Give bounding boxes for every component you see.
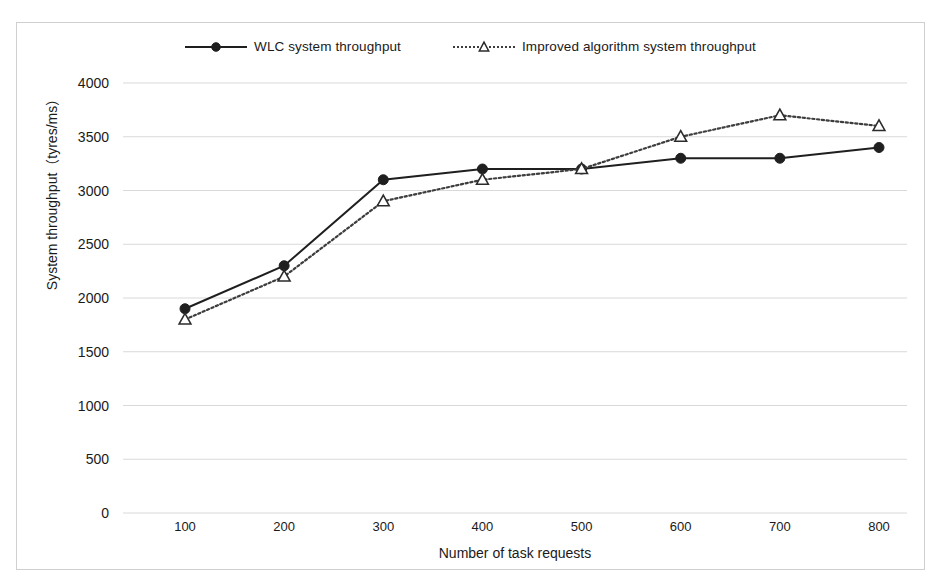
plot-area — [123, 83, 907, 513]
data-point-triangle — [774, 109, 786, 120]
legend-label-improved: Improved algorithm system throughput — [522, 39, 756, 54]
series-line — [185, 115, 879, 319]
y-tick-label: 2500 — [78, 236, 109, 252]
data-point-circle — [775, 153, 785, 163]
y-tick-label: 1500 — [78, 344, 109, 360]
y-tick-label: 2000 — [78, 290, 109, 306]
y-tick-label: 1000 — [78, 398, 109, 414]
y-tick-label: 500 — [86, 451, 109, 467]
x-tick-label: 300 — [372, 519, 394, 534]
x-tick-label: 600 — [670, 519, 692, 534]
y-tick-label: 3500 — [78, 129, 109, 145]
x-axis-tick-labels: 100200300400500600700800 — [123, 519, 907, 541]
legend-entry-wlc: WLC system throughput — [185, 39, 401, 54]
legend-key-dotted-triangle — [453, 40, 515, 54]
y-tick-label: 3000 — [78, 183, 109, 199]
legend-key-solid-circle — [185, 40, 247, 54]
y-axis-title: System throughput（tyres/ms） — [41, 31, 61, 351]
data-point-triangle — [278, 270, 290, 281]
chart-legend: WLC system throughput Improved algorithm… — [17, 39, 924, 54]
legend-entry-improved: Improved algorithm system throughput — [453, 39, 756, 54]
y-tick-label: 4000 — [78, 75, 109, 91]
legend-label-wlc: WLC system throughput — [254, 39, 401, 54]
x-tick-label: 500 — [571, 519, 593, 534]
x-tick-label: 700 — [769, 519, 791, 534]
data-point-circle — [676, 153, 686, 163]
series-line — [185, 148, 879, 309]
x-axis-title: Number of task requests — [123, 545, 907, 561]
series-layer — [179, 109, 885, 324]
x-tick-label: 400 — [472, 519, 494, 534]
y-tick-label: 0 — [101, 505, 109, 521]
data-point-circle — [874, 143, 884, 153]
series-2 — [179, 109, 885, 324]
x-tick-label: 800 — [868, 519, 890, 534]
plot-svg — [123, 83, 907, 513]
hollow-triangle-marker-icon — [476, 40, 491, 54]
series-1 — [180, 143, 884, 314]
x-tick-label: 200 — [273, 519, 295, 534]
gridlines — [123, 83, 907, 513]
x-tick-label: 100 — [174, 519, 196, 534]
chart-figure: WLC system throughput Improved algorithm… — [16, 22, 925, 570]
filled-circle-marker-icon — [210, 40, 223, 53]
data-point-circle — [378, 175, 388, 185]
